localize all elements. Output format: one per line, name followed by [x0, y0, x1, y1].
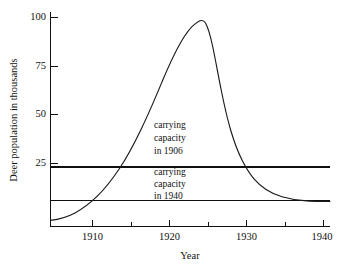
x-tick-label-1910: 1910 — [82, 231, 103, 242]
annotation-1940-line3: in 1940 — [154, 191, 183, 201]
annotation-1940-line2: capacity — [154, 179, 186, 189]
y-tick-label-100: 100 — [30, 11, 46, 22]
y-tick-label-50: 50 — [36, 108, 47, 119]
annotation-1940-line1: carrying — [154, 167, 186, 177]
carrying-capacity-1940-annotation: carrying capacity in 1940 — [154, 167, 186, 201]
y-tick-marks — [51, 18, 59, 164]
y-tick-label-25: 25 — [36, 157, 47, 168]
x-tick-label-1920: 1920 — [159, 231, 180, 242]
deer-population-figure: 100 75 50 25 1910 1920 1930 1940 Year De… — [0, 0, 352, 266]
annotation-1906-line2: capacity — [154, 133, 186, 143]
x-minor-tick-marks — [131, 222, 285, 227]
x-axis-title: Year — [180, 250, 200, 261]
carrying-capacity-1906-annotation: carrying capacity in 1906 — [154, 120, 186, 156]
deer-population-curve — [51, 20, 331, 220]
x-tick-label-1940: 1940 — [312, 231, 333, 242]
y-axis-title: Deer population in thousands — [8, 58, 19, 181]
annotation-1906-line3: in 1906 — [154, 146, 183, 156]
x-tick-label-1930: 1930 — [236, 231, 257, 242]
annotation-1906-line1: carrying — [154, 120, 186, 130]
line-chart-svg: 100 75 50 25 1910 1920 1930 1940 Year De… — [0, 0, 352, 266]
y-tick-label-75: 75 — [36, 60, 47, 71]
